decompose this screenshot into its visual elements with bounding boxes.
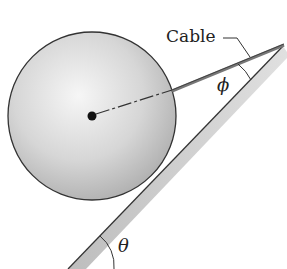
phi-angle-arc: [238, 64, 251, 80]
sphere: [8, 32, 176, 200]
sphere-center-dot: [88, 112, 97, 121]
diagram-canvas: Cable ϕ θ: [0, 0, 287, 269]
cable-label: Cable: [166, 26, 216, 46]
cable-leader-line: [223, 38, 250, 57]
phi-label: ϕ: [217, 74, 229, 95]
theta-label: θ: [118, 235, 129, 256]
